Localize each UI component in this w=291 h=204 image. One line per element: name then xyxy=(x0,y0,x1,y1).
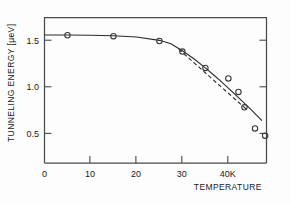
x-tick-label-0: 0 xyxy=(42,169,47,179)
data-points-layer xyxy=(65,33,268,139)
y-tick-label-0-5: 0.5 xyxy=(26,129,39,139)
x-tick-label-30: 30 xyxy=(177,169,187,179)
fit-line-dashed xyxy=(179,49,248,110)
x-tick-label-10: 10 xyxy=(85,169,95,179)
data-point xyxy=(226,76,231,81)
y-tick-label-1-5: 1.5 xyxy=(26,36,39,46)
fit-line-solid xyxy=(45,35,262,121)
y-axis-ticks-left xyxy=(45,40,52,133)
data-point xyxy=(252,126,257,131)
x-axis-ticks xyxy=(90,156,228,163)
x-tick-label-40k: 40K xyxy=(220,169,236,179)
x-tick-label-20: 20 xyxy=(131,169,141,179)
y-axis-title: TUNNELING ENERGY [µeV] xyxy=(6,24,16,142)
plot-frame xyxy=(45,17,267,163)
y-tick-label-1-0: 1.0 xyxy=(26,82,39,92)
chart-figure: TUNNELING ENERGY [µeV] 1.5 1.0 0.5 xyxy=(0,0,291,204)
data-point xyxy=(236,89,241,94)
fit-curves-layer xyxy=(45,35,262,121)
x-axis-title: TEMPERATURE xyxy=(194,182,262,192)
tunneling-energy-vs-temperature-chart: TUNNELING ENERGY [µeV] 1.5 1.0 0.5 xyxy=(0,0,291,204)
